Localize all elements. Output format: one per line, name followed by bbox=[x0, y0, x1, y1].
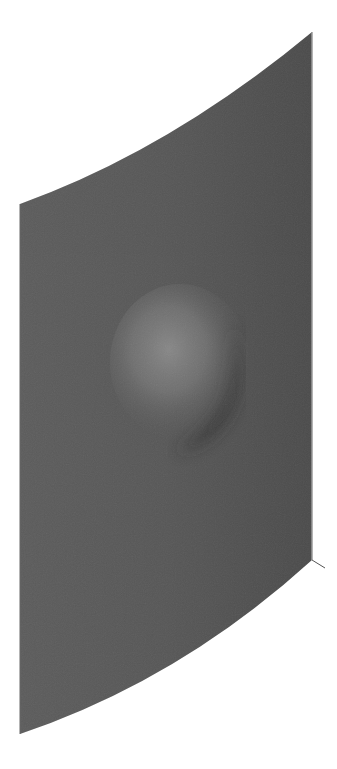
surface-figure bbox=[0, 0, 337, 769]
axis-line bbox=[312, 560, 325, 568]
surface-texture bbox=[0, 0, 337, 769]
